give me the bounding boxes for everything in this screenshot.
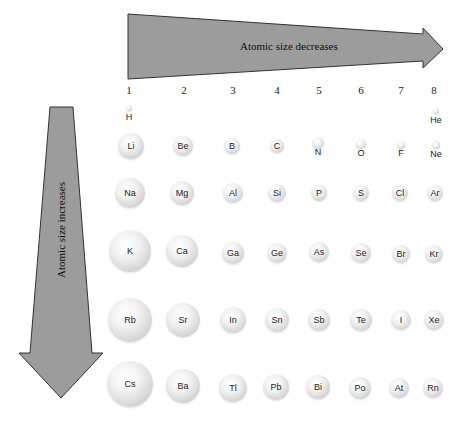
atom-sphere-rn: Rn [423, 378, 443, 398]
group-number: 2 [181, 84, 187, 96]
element-symbol: Tl [229, 383, 237, 393]
element-symbol: B [229, 141, 235, 151]
atom-sphere-ca: Ca [166, 235, 198, 267]
element-symbol: Rb [124, 315, 136, 325]
element-symbol: N [315, 147, 322, 157]
element-symbol: Sr [179, 315, 188, 325]
atom-sphere-s: S [353, 185, 369, 201]
element-symbol: Rn [427, 383, 439, 393]
atom-sphere-se: Se [351, 243, 371, 263]
element-symbol: Na [124, 188, 136, 198]
group-number: 5 [316, 84, 322, 96]
atom-sphere-ga: Ga [222, 242, 244, 264]
element-symbol: Se [355, 248, 366, 258]
atom-sphere-be: Be [173, 136, 193, 156]
element-symbol: Sn [271, 315, 282, 325]
group-number: 8 [431, 84, 437, 96]
atom-sphere-si: Si [268, 184, 286, 202]
atom-sphere-li: Li [118, 133, 144, 159]
element-symbol: Ca [176, 246, 188, 256]
atom-sphere-tl: Tl [219, 374, 247, 402]
element-symbol: Ar [431, 188, 440, 198]
atom-sphere-po: Po [349, 377, 371, 399]
element-symbol: Al [229, 188, 237, 198]
atom-sphere-kr: Kr [425, 245, 443, 263]
element-symbol: Ba [177, 381, 188, 391]
atom-sphere-in: In [220, 307, 246, 333]
element-symbol: In [229, 315, 237, 325]
atom-sphere-cs: Cs [107, 361, 153, 407]
atom-sphere-na: Na [115, 178, 145, 208]
trend-arrows [0, 0, 461, 427]
element-symbol: As [314, 247, 325, 257]
element-symbol: Mg [176, 188, 189, 198]
atom-sphere-at: At [389, 378, 409, 398]
element-symbol: Bi [314, 382, 322, 392]
atom-sphere-cl: Cl [392, 185, 408, 201]
element-symbol: Po [354, 383, 365, 393]
element-symbol: F [398, 148, 404, 158]
atom-sphere-i: I [391, 310, 411, 330]
element-symbol: Pb [270, 382, 281, 392]
atom-sphere-sb: Sb [308, 309, 330, 331]
group-number: 4 [274, 84, 280, 96]
atom-sphere-sr: Sr [166, 303, 200, 337]
atom-sphere-ar: Ar [427, 185, 443, 201]
vertical-arrow-label: Atomic size increases [55, 182, 67, 278]
atom-sphere-al: Al [223, 183, 243, 203]
element-symbol: Sb [313, 315, 324, 325]
atom-sphere-te: Te [350, 309, 372, 331]
element-symbol: Be [177, 141, 188, 151]
element-symbol: At [395, 383, 404, 393]
element-symbol: He [430, 115, 442, 125]
element-symbol: Xe [428, 315, 439, 325]
atom-sphere-b: B [224, 138, 240, 154]
element-symbol: Si [273, 188, 281, 198]
element-symbol: Li [127, 141, 134, 151]
element-symbol: Ne [430, 149, 442, 159]
element-symbol: K [127, 246, 133, 256]
atom-sphere-sn: Sn [265, 308, 289, 332]
element-symbol: Cl [396, 188, 405, 198]
atom-sphere-c: C [270, 139, 284, 153]
atom-sphere-he [433, 108, 439, 114]
atom-sphere-xe: Xe [424, 310, 444, 330]
horizontal-arrow-label: Atomic size decreases [240, 40, 338, 52]
atom-sphere-h [126, 105, 132, 111]
atom-sphere-ba: Ba [166, 369, 200, 403]
atom-sphere-rb: Rb [108, 298, 152, 342]
group-number: 1 [126, 84, 132, 96]
group-number: 7 [398, 84, 404, 96]
element-symbol: H [126, 112, 133, 122]
atom-sphere-ne [432, 141, 440, 149]
atom-sphere-bi: Bi [306, 375, 330, 399]
atom-sphere-pb: Pb [263, 374, 289, 400]
atom-sphere-mg: Mg [170, 181, 194, 205]
atom-sphere-p: P [311, 185, 327, 201]
element-symbol: Kr [430, 249, 439, 259]
atom-sphere-k: K [109, 230, 151, 272]
group-number: 6 [358, 84, 364, 96]
group-number: 3 [230, 84, 236, 96]
element-symbol: Ga [227, 248, 239, 258]
atom-sphere-br: Br [392, 245, 410, 263]
element-symbol: Ge [271, 248, 283, 258]
element-symbol: Cs [125, 379, 136, 389]
atomic-size-diagram: Atomic size decreases Atomic size increa… [0, 0, 461, 427]
element-symbol: C [274, 141, 281, 151]
element-symbol: Br [397, 249, 406, 259]
atom-sphere-as: As [309, 242, 329, 262]
element-symbol: P [316, 188, 322, 198]
element-symbol: S [358, 188, 364, 198]
atom-sphere-ge: Ge [267, 243, 287, 263]
element-symbol: Te [356, 315, 366, 325]
element-symbol: I [400, 315, 403, 325]
element-symbol: O [357, 148, 364, 158]
